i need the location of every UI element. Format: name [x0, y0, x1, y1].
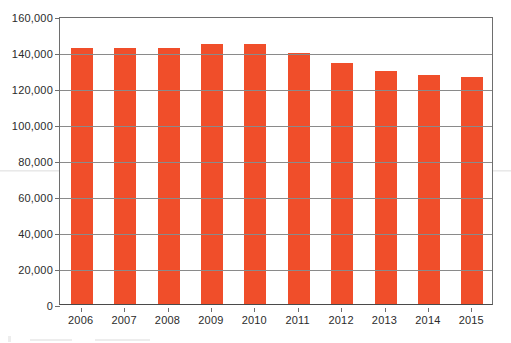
- bar-2008: [158, 48, 180, 304]
- gridline: [60, 90, 492, 91]
- x-axis-label-2012: 2012: [328, 314, 353, 326]
- gridline: [60, 234, 492, 235]
- bar-series: [60, 18, 492, 304]
- x-axis-tick-mark: [124, 308, 125, 312]
- y-axis-tick-mark: [55, 306, 60, 307]
- scan-artifact-smudge: [95, 339, 150, 341]
- x-axis-tick-mark: [341, 308, 342, 312]
- gridline: [60, 54, 492, 55]
- x-axis-label-2014: 2014: [415, 314, 440, 326]
- y-axis-tick-label: 80,000: [18, 156, 53, 168]
- y-axis-tick-label: 40,000: [18, 228, 53, 240]
- gridline: [60, 270, 492, 271]
- y-axis-tick-mark: [55, 90, 60, 91]
- bar-2010: [244, 44, 266, 304]
- x-axis-label-2011: 2011: [285, 314, 309, 326]
- x-axis-label-2010: 2010: [242, 314, 267, 326]
- x-axis-tick-mark: [254, 308, 255, 312]
- x-axis-label-2008: 2008: [155, 314, 180, 326]
- y-axis-tick-label: 160,000: [12, 12, 53, 24]
- y-axis-tick-label: 60,000: [18, 192, 53, 204]
- x-axis-tick-mark: [385, 308, 386, 312]
- y-axis-tick-label: 0: [47, 300, 53, 312]
- chart-plot-area: 020,00040,00060,00080,000100,000120,0001…: [59, 17, 493, 305]
- y-axis-tick-mark: [55, 198, 60, 199]
- x-axis-labels: 2006200720082009201020112012201320142015: [59, 308, 493, 328]
- x-axis-tick-mark: [81, 308, 82, 312]
- bar-2012: [331, 63, 353, 304]
- x-axis-label-2006: 2006: [68, 314, 93, 326]
- y-axis-tick-label: 140,000: [12, 48, 53, 60]
- x-axis-label-2009: 2009: [198, 314, 223, 326]
- y-axis-tick-mark: [55, 18, 60, 19]
- y-axis-tick-mark: [55, 270, 60, 271]
- bar-2009: [201, 44, 223, 304]
- x-axis-label-2013: 2013: [372, 314, 397, 326]
- x-axis-tick-mark: [471, 308, 472, 312]
- y-axis-tick-mark: [55, 54, 60, 55]
- scan-artifact-smudge: [8, 336, 11, 342]
- bar-2007: [114, 48, 136, 304]
- bar-chart-screenshot: 020,00040,00060,00080,000100,000120,0001…: [0, 0, 511, 343]
- bar-2006: [71, 48, 93, 304]
- gridline: [60, 198, 492, 199]
- y-axis-tick-mark: [55, 162, 60, 163]
- y-axis-tick-label: 120,000: [12, 84, 53, 96]
- y-axis-tick-mark: [55, 126, 60, 127]
- x-axis-tick-mark: [428, 308, 429, 312]
- x-axis-label-2007: 2007: [111, 314, 136, 326]
- x-axis-tick-mark: [211, 308, 212, 312]
- y-axis-tick-label: 100,000: [12, 120, 53, 132]
- y-axis-tick-mark: [55, 234, 60, 235]
- scan-artifact-smudge: [30, 339, 72, 341]
- x-axis-tick-mark: [298, 308, 299, 312]
- x-axis-label-2015: 2015: [459, 314, 484, 326]
- gridline: [60, 162, 492, 163]
- gridline: [60, 126, 492, 127]
- x-axis-tick-mark: [168, 308, 169, 312]
- y-axis-tick-label: 20,000: [18, 264, 53, 276]
